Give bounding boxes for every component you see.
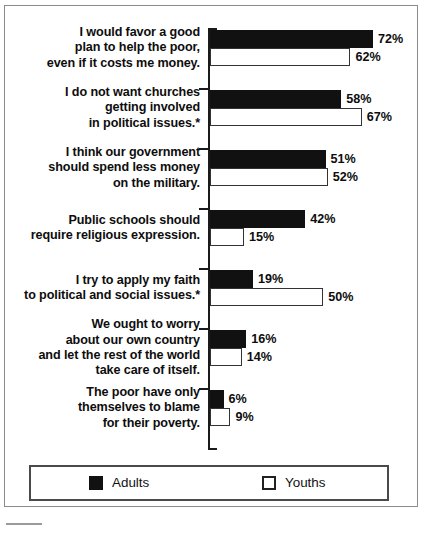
category-label: The poor have only themselves to blame f… bbox=[78, 385, 200, 431]
bar-value-label: 9% bbox=[235, 408, 253, 426]
bar-value-label: 19% bbox=[258, 270, 283, 288]
bar-youths bbox=[210, 348, 242, 366]
bar-value-label: 42% bbox=[310, 210, 335, 228]
bar-adults bbox=[210, 90, 341, 108]
group-tick bbox=[199, 388, 209, 390]
group-tick bbox=[199, 88, 209, 90]
footnote-rule bbox=[6, 523, 42, 525]
bar-youths bbox=[210, 48, 350, 66]
group-tick bbox=[199, 268, 209, 270]
chart-frame: I would favor a good plan to help the po… bbox=[4, 5, 418, 507]
bar-value-label: 6% bbox=[229, 390, 247, 408]
bar-value-label: 50% bbox=[328, 288, 353, 306]
legend-entry-youths: Youths bbox=[262, 475, 325, 490]
bar-youths bbox=[210, 228, 244, 246]
category-label: I think our government should spend less… bbox=[48, 145, 200, 191]
group-tick bbox=[199, 148, 209, 150]
legend-swatch-adults-icon bbox=[89, 476, 103, 490]
bar-value-label: 16% bbox=[251, 330, 276, 348]
bar-adults bbox=[210, 30, 373, 48]
group-tick bbox=[199, 328, 209, 330]
bar-value-label: 67% bbox=[367, 108, 392, 126]
category-label: I try to apply my faith to political and… bbox=[24, 273, 200, 304]
legend-label-adults: Adults bbox=[112, 475, 149, 490]
bar-adults bbox=[210, 330, 246, 348]
category-label: Public schools should require religious … bbox=[31, 213, 200, 244]
bar-value-label: 14% bbox=[247, 348, 272, 366]
bar-value-label: 62% bbox=[355, 48, 380, 66]
legend-swatch-youths-icon bbox=[262, 476, 276, 490]
bar-adults bbox=[210, 390, 224, 408]
bar-adults bbox=[210, 210, 305, 228]
category-label: I do not want churches getting involved … bbox=[65, 85, 200, 131]
bar-value-label: 51% bbox=[331, 150, 356, 168]
bar-value-label: 58% bbox=[346, 90, 371, 108]
category-label: I would favor a good plan to help the po… bbox=[47, 25, 200, 71]
bar-youths bbox=[210, 288, 323, 306]
bar-youths bbox=[210, 108, 362, 126]
group-tick bbox=[199, 208, 209, 210]
chart-legend: Adults Youths bbox=[29, 465, 389, 501]
category-label: We ought to worry about our own country … bbox=[38, 317, 200, 379]
plot-area: I would favor a good plan to help the po… bbox=[5, 6, 419, 461]
bar-value-label: 15% bbox=[249, 228, 274, 246]
legend-label-youths: Youths bbox=[285, 475, 325, 490]
bar-youths bbox=[210, 408, 230, 426]
bar-adults bbox=[210, 270, 253, 288]
bar-youths bbox=[210, 168, 328, 186]
bar-adults bbox=[210, 150, 326, 168]
axis-bottom-cap bbox=[208, 448, 217, 450]
bar-value-label: 72% bbox=[378, 30, 403, 48]
bar-value-label: 52% bbox=[333, 168, 358, 186]
legend-entry-adults: Adults bbox=[89, 475, 149, 490]
